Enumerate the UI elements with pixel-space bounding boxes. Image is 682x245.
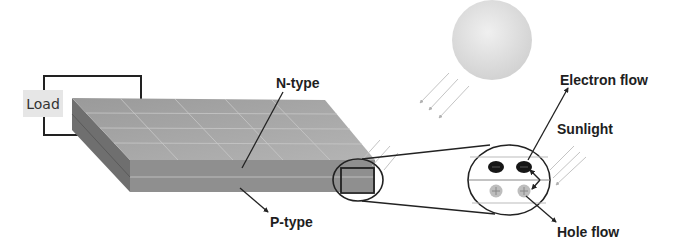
n-type-label: N-type <box>276 76 320 90</box>
sunlight-rays <box>550 146 586 185</box>
sun-rays-upper <box>420 73 469 118</box>
p-type-label: P-type <box>270 215 313 229</box>
sun <box>452 0 532 80</box>
electron-flow-label: Electron flow <box>560 73 648 87</box>
solar-panel <box>72 98 375 192</box>
sunlight-label: Sunlight <box>557 122 613 136</box>
load-label: Load <box>23 90 63 117</box>
hole-flow-label: Hole flow <box>557 225 619 239</box>
